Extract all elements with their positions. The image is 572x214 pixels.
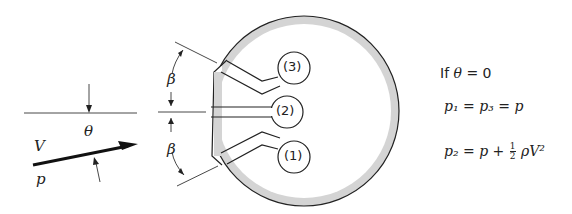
eq2-rhs: ρV²	[521, 143, 545, 159]
beta-bottom-label: β	[167, 140, 176, 158]
equation-p1-p3: p₁ = p₃ = p	[444, 98, 523, 114]
velocity-label: V	[34, 137, 45, 155]
hole-1-label: (1)	[284, 148, 302, 163]
diagram-root: β β θ V p (3) (2) (1) If θ = 0 p₁ = p₃ =…	[0, 0, 572, 214]
condition-line: If θ = 0	[440, 65, 492, 81]
velocity-arrow	[33, 141, 138, 165]
theta-label: θ	[84, 122, 93, 140]
beta-top-label: β	[167, 70, 176, 88]
equation-p2: p₂ = p + 1 2 ρV²	[444, 142, 545, 161]
condition-rest: = 0	[466, 65, 491, 81]
hole-2-label: (2)	[276, 103, 294, 118]
hole-3-label: (3)	[283, 59, 301, 74]
eq2-fraction: 1 2	[510, 142, 516, 161]
condition-prefix: If	[440, 65, 449, 81]
eq2-lhs: p₂ = p +	[444, 143, 504, 159]
eq2-frac-den: 2	[510, 152, 516, 161]
pressure-label: p	[36, 170, 46, 188]
condition-var: θ	[454, 65, 462, 81]
